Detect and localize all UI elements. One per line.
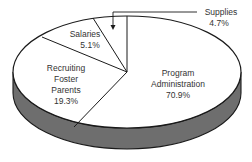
pie-chart: Supplies 4.7% Salaries 5.1% Recruiting F…: [0, 0, 252, 162]
svg-text:4.7%: 4.7%: [209, 18, 229, 28]
svg-text:Foster: Foster: [54, 74, 78, 84]
svg-text:Supplies: Supplies: [205, 7, 238, 17]
svg-text:5.1%: 5.1%: [80, 40, 100, 50]
svg-text:Parents: Parents: [51, 85, 80, 95]
svg-text:Salaries: Salaries: [70, 29, 101, 39]
svg-text:Administration: Administration: [151, 79, 205, 89]
svg-text:Program: Program: [162, 68, 195, 78]
svg-text:70.9%: 70.9%: [166, 90, 191, 100]
svg-text:19.3%: 19.3%: [54, 96, 79, 106]
label-supplies: Supplies 4.7%: [205, 7, 238, 28]
svg-text:Recruiting: Recruiting: [47, 63, 86, 73]
